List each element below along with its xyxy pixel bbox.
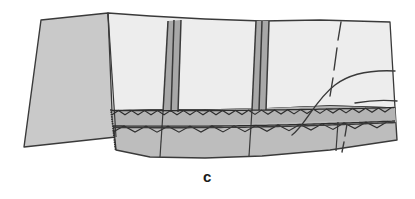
edge-bead-dot <box>113 132 115 134</box>
edge-bead-dot <box>110 111 112 113</box>
edge-bead-dot <box>111 118 113 120</box>
upper-fabric-panel <box>108 13 395 111</box>
edge-bead-dot <box>113 134 115 136</box>
edge-bead-dot <box>111 114 113 116</box>
edge-bead-dot <box>113 137 115 139</box>
figure-caption-label: c <box>0 168 415 186</box>
edge-bead-dot <box>114 141 116 143</box>
edge-bead-dot <box>112 130 114 132</box>
edge-bead-dot <box>112 123 114 125</box>
edge-bead-dot <box>114 144 116 146</box>
edge-bead-dot <box>112 127 114 129</box>
left-facing-panel <box>24 13 116 147</box>
edge-bead-dot <box>111 121 113 123</box>
edge-bead-dot <box>113 139 115 141</box>
edge-bead-dot <box>112 125 114 127</box>
edge-bead-dot <box>110 109 112 111</box>
figure-container: c <box>0 0 415 199</box>
edge-bead-dot <box>111 116 113 118</box>
edge-bead-dot <box>114 146 116 148</box>
edge-bead-dot <box>114 148 116 150</box>
